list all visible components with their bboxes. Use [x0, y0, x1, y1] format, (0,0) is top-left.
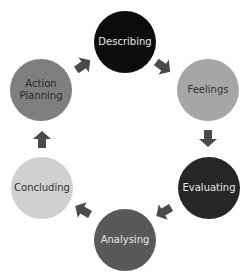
arrow-icon: [199, 130, 217, 147]
label-describing: Describing: [94, 36, 156, 48]
arrow-icon: [152, 200, 176, 224]
label-concluding: Concluding: [11, 182, 73, 194]
label-action-planning: Action Planning: [19, 78, 63, 102]
arrow-icon: [151, 55, 175, 79]
arrow-icon: [33, 131, 51, 148]
arrow-icon: [71, 198, 95, 222]
label-evaluating: Evaluating: [178, 182, 240, 194]
label-feelings: Feelings: [177, 84, 239, 96]
label-analysing: Analysing: [94, 234, 156, 246]
arrow-icon: [71, 53, 95, 77]
